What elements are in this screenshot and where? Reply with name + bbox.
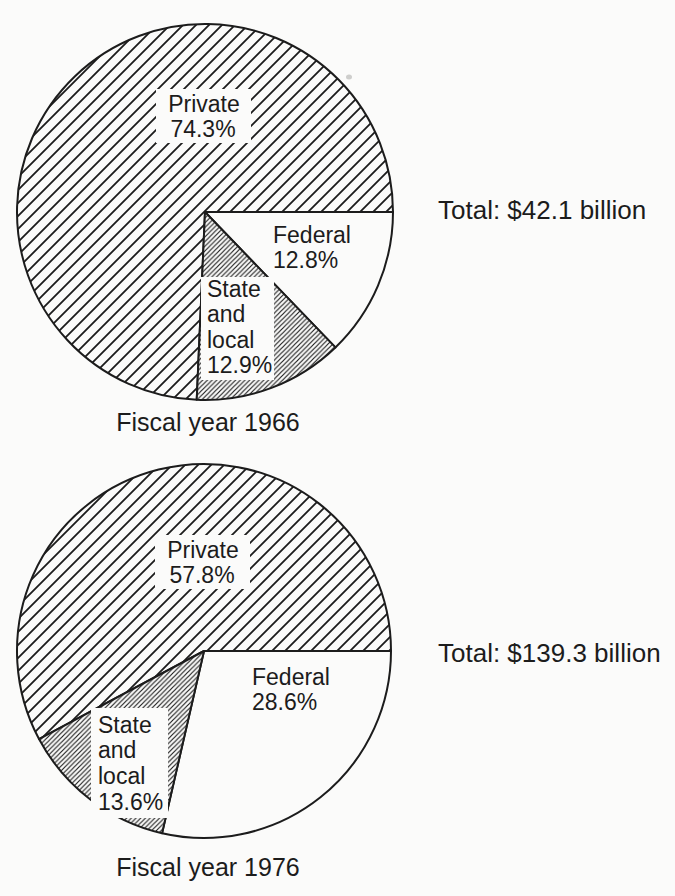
fy1966-private-label: Private — [168, 91, 240, 117]
scanned-figure-page: Private 74.3% Federal 12.8% State and lo… — [0, 0, 675, 896]
pie-charts-figure: Private 74.3% Federal 12.8% State and lo… — [0, 0, 675, 896]
fy1966-private-value: 74.3% — [170, 116, 235, 142]
fy1976-total-label: Total: $139.3 billion — [438, 638, 661, 668]
fy1976-private-label: Private — [167, 537, 239, 563]
fy1976-private-value: 57.8% — [169, 562, 234, 588]
fy1966-state-local-label-line2: and — [207, 301, 245, 327]
fy1966-state-local-label-line3: local — [207, 327, 254, 353]
fy1976-state-local-value: 13.6% — [98, 789, 163, 815]
fy1966-total-label: Total: $42.1 billion — [438, 195, 646, 225]
fy1976-state-local-label-line1: State — [98, 712, 152, 738]
fy1976-federal-label: Federal — [252, 664, 330, 690]
fy1966-state-local-label-line1: State — [207, 276, 261, 302]
fy1976-caption: Fiscal year 1976 — [116, 853, 299, 881]
pie-chart-fy1966: Private 74.3% Federal 12.8% State and lo… — [17, 24, 393, 436]
fy1966-state-local-value: 12.9% — [207, 352, 272, 378]
fy1976-state-local-label-line3: local — [98, 763, 145, 789]
fy1966-federal-label: Federal — [273, 222, 351, 248]
fy1976-federal-value: 28.6% — [252, 689, 317, 715]
pie-chart-fy1976: Private 57.8% Federal 28.6% State and lo… — [17, 464, 391, 881]
fy1966-caption: Fiscal year 1966 — [116, 408, 299, 436]
fy1966-federal-value: 12.8% — [273, 247, 338, 273]
fy1976-state-local-label-line2: and — [98, 737, 136, 763]
scan-speck — [346, 75, 352, 80]
